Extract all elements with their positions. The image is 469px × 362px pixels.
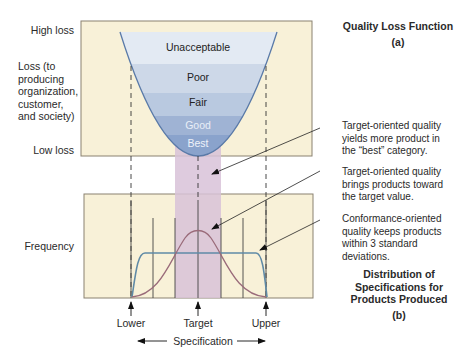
annotation-line: quality keeps products	[342, 226, 467, 239]
annotation-line: deviations.	[342, 251, 467, 264]
annotation-line: Target-oriented quality	[342, 120, 467, 133]
low-loss-label: Low loss	[10, 144, 74, 157]
annotation-line: the target value.	[342, 191, 467, 204]
annotation-target-value: Target-oriented quality brings products …	[342, 166, 467, 204]
annotation-line: within 3 standard	[342, 238, 467, 251]
tick-upper: Upper	[246, 317, 286, 330]
tick-target: Target	[178, 317, 218, 330]
loss-function-label: (a)	[336, 36, 460, 49]
annotation-best-category: Target-oriented quality yields more prod…	[342, 120, 467, 158]
spec-tick-arrows	[131, 302, 266, 316]
distribution-label: (b)	[332, 309, 466, 322]
loss-axis-line: producing	[18, 73, 88, 86]
distribution-title-line: Specifications for	[332, 281, 466, 294]
loss-axis-label: Loss (to producing organization, custome…	[18, 60, 88, 123]
frequency-label: Frequency	[10, 240, 74, 253]
loss-function-title: Quality Loss Function	[336, 20, 460, 33]
high-loss-label: High loss	[10, 24, 74, 37]
band-fair: Fair	[148, 96, 248, 109]
annotation-line: Conformance-oriented	[342, 213, 467, 226]
distribution-title-line: Distribution of	[332, 268, 466, 281]
annotation-line: yields more product in	[342, 133, 467, 146]
band-unacceptable: Unacceptable	[148, 41, 248, 54]
loss-axis-line: and society)	[18, 110, 88, 123]
band-best: Best	[148, 137, 248, 150]
annotation-line: brings products toward	[342, 179, 467, 192]
distribution-title-line: Products Produced	[332, 293, 466, 306]
loss-axis-line: organization,	[18, 85, 88, 98]
distribution-title: Distribution of Specifications for Produ…	[332, 268, 466, 306]
annotation-line: Target-oriented quality	[342, 166, 467, 179]
specification-axis-label: Specification	[168, 335, 238, 348]
annotation-conformance: Conformance-oriented quality keeps produ…	[342, 213, 467, 263]
tick-lower: Lower	[111, 317, 151, 330]
annotation-line: the “best” category.	[342, 145, 467, 158]
band-poor: Poor	[148, 71, 248, 84]
loss-axis-line: customer,	[18, 98, 88, 111]
loss-axis-line: Loss (to	[18, 60, 88, 73]
band-good: Good	[148, 119, 248, 132]
